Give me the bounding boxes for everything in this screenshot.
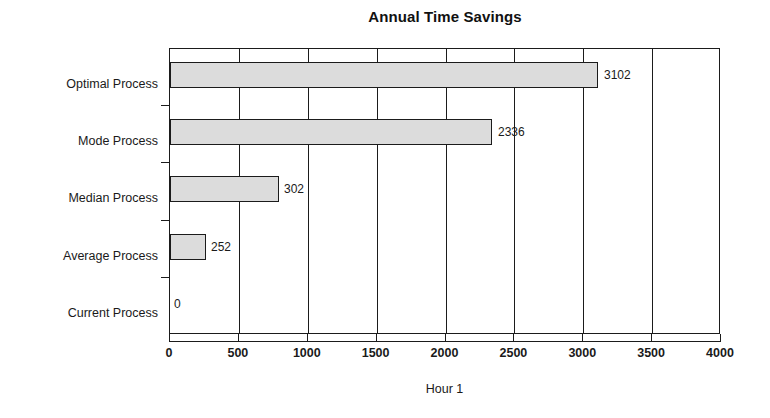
- bar-median-process[interactable]: [170, 176, 279, 202]
- y-axis-tick-1: [161, 105, 169, 106]
- bar-value-label-average-process: 252: [211, 237, 231, 257]
- x-axis-title: Hour 1: [169, 382, 720, 396]
- y-axis-label-current-process: Current Process: [0, 305, 158, 321]
- bar-band-average-process: 252: [170, 221, 719, 278]
- y-axis-tick-4: [161, 277, 169, 278]
- y-axis-label-median-process: Median Process: [0, 190, 158, 206]
- y-axis-tick-3: [161, 220, 169, 221]
- bar-chart: Annual Time Savings Optimal Process Mode…: [0, 0, 770, 418]
- y-axis-tick-2: [161, 162, 169, 163]
- bar-value-label-current-process: 0: [174, 294, 181, 314]
- bar-band-mode-process: 2336: [170, 106, 719, 163]
- bar-average-process[interactable]: [170, 234, 206, 260]
- chart-title: Annual Time Savings: [169, 8, 721, 25]
- bar-band-optimal-process: 3102: [170, 49, 719, 106]
- bar-value-label-optimal-process: 3102: [604, 65, 631, 85]
- x-axis-line: [169, 341, 720, 342]
- y-axis-label-mode-process: Mode Process: [0, 133, 158, 149]
- bar-value-label-median-process: 302: [284, 179, 304, 199]
- plot-area: 3102 2336 302 252 0: [169, 48, 720, 334]
- y-axis-label-optimal-process: Optimal Process: [0, 76, 158, 92]
- x-axis-tick-label-4000: 4000: [680, 346, 760, 360]
- bar-band-current-process: 0: [170, 278, 719, 335]
- bar-mode-process[interactable]: [170, 119, 492, 145]
- y-axis-label-average-process: Average Process: [0, 248, 158, 264]
- bar-optimal-process[interactable]: [170, 62, 598, 88]
- x-axis-tick-4000: [720, 334, 721, 342]
- bar-value-label-mode-process: 2336: [498, 122, 525, 142]
- bar-band-median-process: 302: [170, 163, 719, 220]
